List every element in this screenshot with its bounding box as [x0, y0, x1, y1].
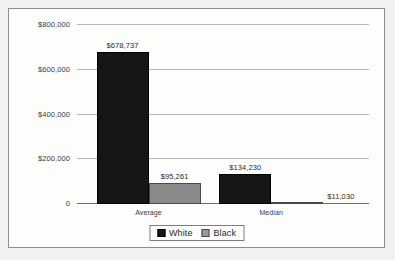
chart-legend: White Black — [149, 225, 244, 241]
chart-frame: $800,000 $600,000 $400,000 $200,000 0 $6… — [8, 8, 385, 248]
bar-value-average-white: $678,737 — [106, 41, 138, 50]
bar-value-median-white: $134,230 — [229, 163, 261, 172]
ytick-label-400000: $400,000 — [38, 109, 70, 118]
legend-swatch-white-icon — [157, 229, 165, 237]
ytick-label-0: 0 — [66, 199, 70, 208]
bar-average-white[interactable]: $678,737 — [97, 52, 149, 204]
ytick-label-200000: $200,000 — [38, 154, 70, 163]
gridline-800000: $800,000 — [77, 24, 369, 25]
bar-value-average-black: $95,261 — [161, 172, 189, 181]
legend-item-white[interactable]: White — [157, 228, 193, 238]
legend-item-black[interactable]: Black — [202, 228, 237, 238]
legend-swatch-black-icon — [202, 229, 210, 237]
bar-median-black[interactable]: $11,030 — [271, 202, 323, 204]
bar-average-black[interactable]: $95,261 — [149, 183, 201, 204]
bar-value-median-black: $11,030 — [327, 192, 354, 201]
category-label-average: Average — [135, 209, 162, 216]
legend-label-white: White — [169, 228, 193, 238]
legend-label-black: Black — [214, 228, 237, 238]
bar-median-white[interactable]: $134,230 — [219, 174, 271, 204]
category-label-median: Median — [259, 209, 283, 216]
ytick-label-800000: $800,000 — [38, 20, 70, 29]
plot-area: $800,000 $600,000 $400,000 $200,000 0 $6… — [77, 25, 369, 204]
ytick-label-600000: $600,000 — [38, 64, 70, 73]
